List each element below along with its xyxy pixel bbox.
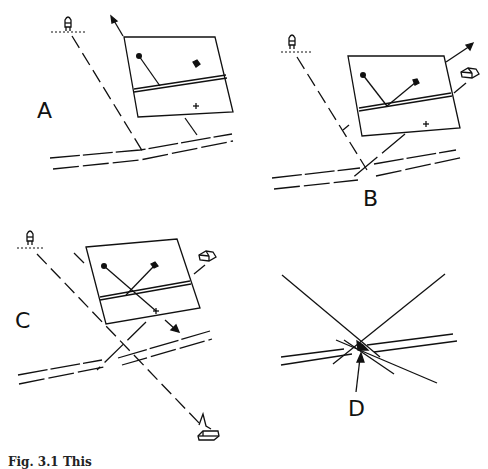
bearing-line-lighthouse bbox=[37, 254, 200, 424]
house-icon bbox=[461, 68, 479, 78]
arrow-icon bbox=[165, 320, 179, 332]
projection-line bbox=[185, 118, 197, 135]
boat-icon bbox=[198, 414, 219, 440]
chart-sheet bbox=[124, 37, 233, 117]
panel-label-a: A bbox=[37, 100, 52, 122]
bearing-line-stub bbox=[74, 253, 84, 263]
arrow-icon bbox=[446, 43, 473, 62]
arrow-icon bbox=[111, 16, 123, 36]
panel-c bbox=[17, 231, 219, 440]
panel-a bbox=[50, 16, 233, 169]
bearing-line-lighthouse bbox=[297, 57, 367, 170]
bearing-line-3 bbox=[336, 340, 437, 383]
arrow-icon bbox=[356, 353, 364, 392]
road bbox=[50, 134, 233, 169]
bearing-line-house bbox=[194, 265, 205, 274]
panel-b bbox=[272, 35, 479, 189]
panel-label-d: D bbox=[348, 398, 365, 420]
bearing-line-house-lower bbox=[350, 134, 405, 180]
chart-sheet bbox=[348, 56, 460, 136]
bearing-line-house-lower bbox=[97, 322, 146, 370]
lighthouse-icon bbox=[51, 17, 86, 32]
panel-label-c: C bbox=[15, 310, 30, 332]
panel-d bbox=[281, 274, 457, 392]
lighthouse-icon bbox=[17, 231, 45, 248]
bearing-line-extension bbox=[343, 125, 349, 130]
road bbox=[18, 331, 212, 384]
bearing-line-house bbox=[454, 83, 466, 93]
chart-sheet bbox=[86, 239, 200, 324]
house-icon bbox=[199, 251, 216, 261]
figure-caption: Fig. 3.1 This bbox=[8, 455, 92, 469]
lighthouse-icon bbox=[281, 35, 313, 52]
panel-label-b: B bbox=[363, 188, 378, 210]
road bbox=[272, 150, 464, 189]
road bbox=[281, 334, 457, 365]
bearing-line-1 bbox=[282, 275, 380, 357]
bearing-line-lighthouse bbox=[72, 36, 143, 152]
